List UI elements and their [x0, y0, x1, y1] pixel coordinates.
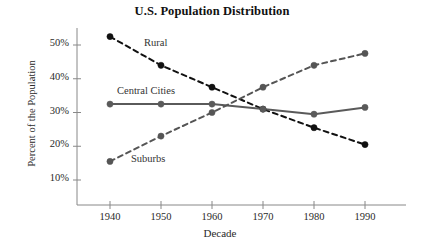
x-tick-label: 1990 — [343, 211, 387, 222]
data-point — [209, 109, 215, 115]
y-tick-label: 30% — [35, 105, 69, 116]
data-point — [158, 133, 164, 139]
series-lines — [110, 37, 365, 162]
series-markers — [107, 34, 368, 165]
data-point — [362, 50, 368, 56]
series-label-central-cities: Central Cities — [117, 85, 175, 96]
y-tick-label: 50% — [35, 37, 69, 48]
x-tick-label: 1960 — [190, 211, 234, 222]
series-label-rural: Rural — [144, 37, 167, 48]
data-point — [209, 101, 215, 107]
data-point — [107, 158, 113, 164]
x-tick-label: 1970 — [241, 211, 285, 222]
data-point — [311, 62, 317, 68]
series-line-central-cities — [110, 104, 365, 114]
data-point — [107, 101, 113, 107]
chart-container: U.S. Population Distribution Percent of … — [0, 0, 424, 250]
data-point — [209, 84, 215, 90]
data-point — [260, 106, 266, 112]
y-tick-label: 10% — [35, 172, 69, 183]
data-point — [158, 62, 164, 68]
series-label-suburbs: Suburbs — [131, 153, 165, 164]
data-point — [311, 125, 317, 131]
axis-ticks — [73, 45, 365, 209]
y-tick-label: 20% — [35, 138, 69, 149]
x-tick-label: 1950 — [139, 211, 183, 222]
data-point — [311, 111, 317, 117]
data-point — [260, 84, 266, 90]
data-point — [362, 104, 368, 110]
data-point — [158, 101, 164, 107]
data-point — [362, 142, 368, 148]
data-point — [107, 34, 113, 40]
y-tick-label: 40% — [35, 71, 69, 82]
x-tick-label: 1980 — [292, 211, 336, 222]
x-tick-label: 1940 — [88, 211, 132, 222]
